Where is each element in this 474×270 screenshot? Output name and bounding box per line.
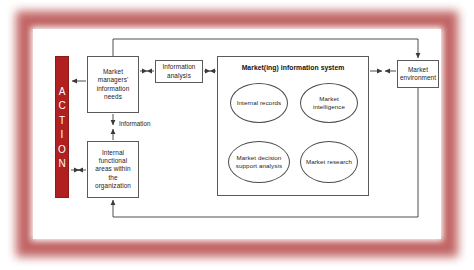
node-market-environment[interactable]: Market environment [397,60,439,88]
ellipse-label: Market research [304,158,354,166]
edge-label-information: Information [119,120,151,128]
ellipse-label: Market decision support analysis [229,154,289,169]
action-bar[interactable]: A C T I O N [55,56,69,198]
ellipse-label: Market intelligence [301,95,357,110]
ellipse-internal-records[interactable]: Internal records [230,83,288,123]
node-marketing-information-system[interactable]: Market(ing) information system Internal … [217,56,369,196]
mis-title: Market(ing) information system [218,64,368,72]
node-label: Market managers' information needs [88,68,138,101]
node-internal-functional-areas[interactable]: Internal functional areas within the org… [87,141,139,198]
action-letter-n: N [58,159,65,169]
diagram-page: A C T I O N Market managers' information… [0,0,474,270]
node-label: Internal functional areas within the org… [88,149,138,190]
action-letter-o: O [58,145,66,155]
action-letter-i: I [61,130,64,140]
node-label: Information analysis [156,63,202,79]
action-letter-c: C [58,101,65,111]
node-label: Market environment [398,66,438,82]
node-market-managers-information-needs[interactable]: Market managers' information needs [87,56,139,113]
ellipse-label: Internal records [235,99,284,107]
diagram-canvas: A C T I O N Market managers' information… [33,29,441,239]
action-letter-t: T [59,116,65,126]
ellipse-market-research[interactable]: Market research [300,141,358,183]
action-letter-a: A [59,87,66,97]
node-information-analysis[interactable]: Information analysis [155,60,203,83]
ellipse-market-intelligence[interactable]: Market intelligence [300,83,358,123]
ellipse-market-decision-support-analysis[interactable]: Market decision support analysis [228,141,290,183]
